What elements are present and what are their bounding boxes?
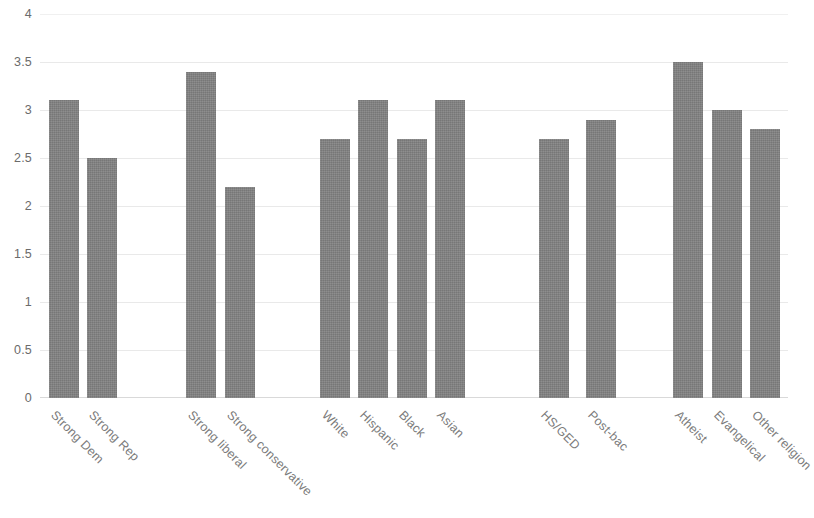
x-axis-category-label: Black [396, 408, 428, 440]
x-axis-category-label: Post-bac [585, 408, 631, 454]
x-axis-category-label: Hispanic [357, 408, 402, 453]
x-axis-category-label: Asian [434, 408, 467, 441]
x-axis-category-label: HS/GED [538, 408, 583, 453]
x-axis-category-label: White [319, 408, 352, 441]
x-axis-category-label: Atheist [672, 408, 710, 446]
